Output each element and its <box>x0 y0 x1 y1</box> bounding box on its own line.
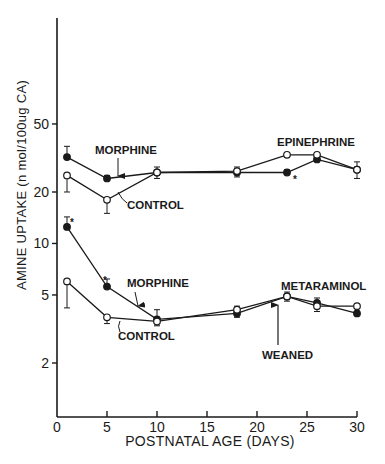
y-tick-label: 5 <box>41 287 49 303</box>
open-point <box>284 152 291 159</box>
y-tick-label: 2 <box>41 355 49 371</box>
y-ticks: 25102050 <box>33 116 57 371</box>
open-point <box>234 306 241 313</box>
x-tick-label: 5 <box>103 419 111 435</box>
epi-control-label: CONTROL <box>127 199 184 211</box>
filled-point <box>104 175 111 182</box>
weaned-label: WEANED <box>262 349 313 361</box>
y-tick-label: 20 <box>33 184 49 200</box>
x-tick-label: 30 <box>349 419 365 435</box>
open-point <box>354 303 361 310</box>
significance-star: * <box>293 174 297 185</box>
open-point <box>104 314 111 321</box>
open-point <box>64 278 71 285</box>
filled-point <box>64 154 71 161</box>
y-tick-label: 50 <box>33 116 49 132</box>
y-axis-title: AMINE UPTAKE (n mol/100ug CA) <box>14 80 29 290</box>
annotations: MORPHINE CONTROL EPINEPHRINE MORPHINE CO… <box>70 136 366 361</box>
open-point <box>314 303 321 310</box>
open-point <box>354 166 361 173</box>
meta-control-label: CONTROL <box>118 330 175 342</box>
significance-star: * <box>70 217 74 228</box>
open-point <box>314 152 321 159</box>
data-series <box>64 146 361 325</box>
meta-morphine-arrow <box>135 292 138 306</box>
x-tick-label: 25 <box>299 419 315 435</box>
significance-star: * <box>103 275 107 286</box>
open-point <box>154 318 161 325</box>
epinephrine-label: EPINEPHRINE <box>277 136 355 148</box>
filled-point <box>284 169 291 176</box>
epi-morphine-label: MORPHINE <box>95 144 157 156</box>
open-point <box>104 197 111 204</box>
x-axis-title: POSTNATAL AGE (DAYS) <box>125 433 295 449</box>
open-point <box>284 293 291 300</box>
meta-morphine-label: MORPHINE <box>127 277 189 289</box>
open-point <box>64 172 71 179</box>
open-point <box>154 169 161 176</box>
metaraminol-label: METARAMINOL <box>281 280 366 292</box>
open-point <box>234 168 241 175</box>
x-tick-label: 0 <box>53 419 61 435</box>
x-ticks: 051015202530 <box>53 411 365 435</box>
y-tick-label: 10 <box>33 235 49 251</box>
epi-control-leader <box>118 192 127 203</box>
chart: 25102050 051015202530 AMINE UPTAKE (n mo… <box>0 0 385 464</box>
